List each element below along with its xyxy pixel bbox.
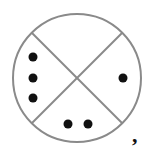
sector-circle-diagram: [0, 0, 150, 156]
trailing-comma: ,: [132, 122, 138, 148]
right-sector-dots: [119, 74, 128, 83]
bottom-sector-dots: [64, 120, 93, 129]
left-sector-dots: [29, 53, 38, 103]
